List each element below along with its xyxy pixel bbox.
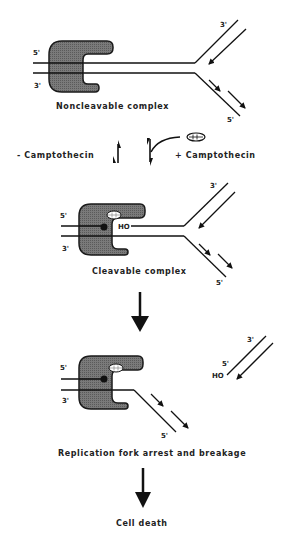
label-plus-camptothecin: + Camptothecin bbox=[175, 151, 256, 160]
panel-cleavable: HO 5' 3' 3' 5' Cleavable complex bbox=[60, 182, 235, 287]
label-fork-3prime: 3' bbox=[210, 182, 217, 190]
topoisomerase-enzyme-icon bbox=[49, 41, 113, 92]
label-fork-5prime: 5' bbox=[216, 279, 223, 287]
label-ho: HO bbox=[118, 223, 130, 231]
label-5prime: 5' bbox=[60, 212, 67, 220]
caption-arrest: Replication fork arrest and breakage bbox=[58, 449, 246, 458]
label-5prime: 5' bbox=[33, 49, 40, 57]
equilibrium-arrows: - Camptothecin + Camptothecin bbox=[17, 133, 256, 166]
label-fragment-ho: HO bbox=[212, 372, 224, 380]
label-3prime: 3' bbox=[62, 245, 69, 253]
label-fragment-3prime: 3' bbox=[247, 336, 254, 344]
panel-noncleavable: 5' 3' 3' 5' Noncleavable complex bbox=[33, 20, 246, 124]
label-3prime: 3' bbox=[62, 397, 69, 405]
mechanism-diagram: 5' 3' 3' 5' Noncleavable complex - Campt… bbox=[0, 0, 293, 542]
topoisomerase-enzyme-icon bbox=[79, 356, 143, 409]
label-strand-5prime: 5' bbox=[161, 432, 168, 440]
label-fork-5prime: 5' bbox=[227, 116, 234, 124]
label-3prime: 3' bbox=[34, 82, 41, 90]
caption-cleavable: Cleavable complex bbox=[92, 267, 187, 276]
down-arrow-icon bbox=[135, 468, 151, 508]
panel-arrest: 5' 3' 5' 3' 5' HO Replication fork arres… bbox=[58, 336, 273, 458]
down-arrow-icon bbox=[131, 292, 149, 332]
label-5prime: 5' bbox=[60, 364, 67, 372]
label-cell-death: Cell death bbox=[116, 519, 168, 528]
label-fragment-5prime: 5' bbox=[222, 360, 229, 368]
caption-noncleavable: Noncleavable complex bbox=[56, 102, 169, 111]
label-minus-camptothecin: - Camptothecin bbox=[17, 151, 94, 160]
label-fork-3prime: 3' bbox=[220, 21, 227, 29]
